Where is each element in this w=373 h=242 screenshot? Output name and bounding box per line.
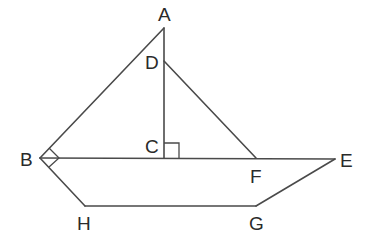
label-a: A [158,4,171,25]
segment-bh [40,158,85,206]
segment-ge [256,159,335,206]
label-h: H [77,213,91,234]
segment-be [40,158,335,159]
label-b: B [20,149,33,170]
label-c: C [145,136,159,157]
right-angle-marker-c [164,143,179,158]
label-d: D [145,52,159,73]
label-g: G [249,213,264,234]
label-e: E [340,150,353,171]
geometry-diagram: A D C B F E H G [0,0,373,242]
label-f: F [250,166,262,187]
